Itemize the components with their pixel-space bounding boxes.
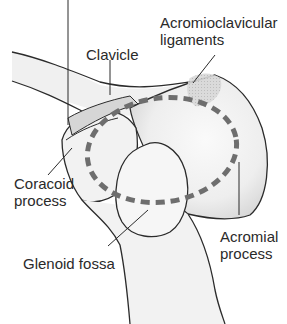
ac-ligaments-label-line2: ligaments [160,31,224,48]
scapula-illustration [0,0,287,324]
glenoid-fossa-label: Glenoid fossa [23,255,115,272]
acromial-label-line1: Acromial [220,228,278,245]
shoulder-anatomy-diagram: Clavicle Acromioclavicular ligaments Cor… [0,0,287,324]
coracoid-label-line1: Coracoid [14,175,74,192]
clavicle-label: Clavicle [86,46,139,63]
coracoid-label-line2: process [14,192,67,209]
ac-ligaments-label-line1: Acromioclavicular [160,14,278,31]
glenoid-fossa [116,143,188,237]
acromial-label-line2: process [220,245,273,262]
